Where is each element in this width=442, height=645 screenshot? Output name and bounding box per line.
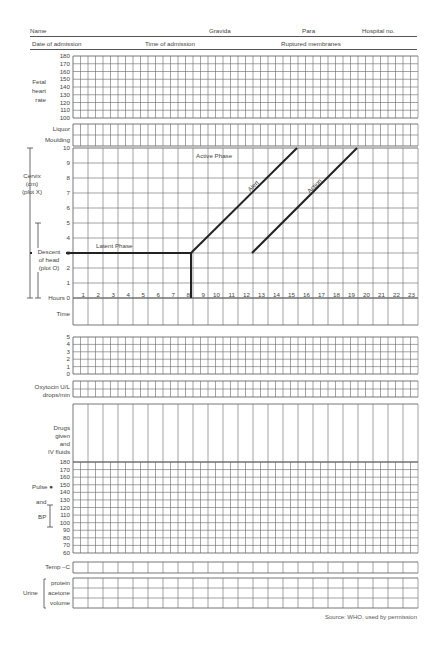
hour-label: 5 xyxy=(133,292,145,298)
axis-tick: 4 xyxy=(50,235,70,241)
hour-label: 13 xyxy=(253,292,265,298)
time-label: Time xyxy=(30,311,70,317)
axis-tick: 120 xyxy=(50,505,70,511)
axis-tick: 150 xyxy=(50,482,70,488)
axis-tick: 180 xyxy=(50,459,70,465)
axis-tick: 70 xyxy=(50,542,70,548)
axis-tick: 120 xyxy=(50,100,70,106)
urine-label: Urine xyxy=(23,590,38,596)
cervix-label: Cervix(cm)(plot X) xyxy=(17,172,47,196)
active-phase-label: Active Phase xyxy=(196,153,232,159)
source-credit: Source: WHO, used by permission xyxy=(325,614,417,620)
hour-label: 18 xyxy=(328,292,340,298)
hour-label: 14 xyxy=(268,292,280,298)
axis-tick: 60 xyxy=(50,550,70,556)
hour-label: 19 xyxy=(343,292,355,298)
axis-tick: 5 xyxy=(50,334,70,340)
axis-tick: 7 xyxy=(50,190,70,196)
temp-label: Temp –C xyxy=(20,564,70,570)
axis-tick: 100 xyxy=(50,520,70,526)
axis-tick: 1 xyxy=(50,280,70,286)
liquor-label: Liquor xyxy=(30,126,70,132)
hour-label: 6 xyxy=(148,292,160,298)
axis-tick: 10 xyxy=(50,145,70,151)
hour-label: 1 xyxy=(73,292,85,298)
hour-label: 11 xyxy=(223,292,235,298)
moulding-label: Moulding xyxy=(30,137,70,143)
hour-label: 12 xyxy=(238,292,250,298)
axis-tick: 3 xyxy=(50,250,70,256)
axis-tick: 140 xyxy=(50,489,70,495)
hour-label: 8 xyxy=(178,292,190,298)
axis-tick: 6 xyxy=(50,205,70,211)
axis-tick: 5 xyxy=(50,220,70,226)
axis-tick: 2 xyxy=(50,265,70,271)
hour-label: 21 xyxy=(373,292,385,298)
axis-tick: 170 xyxy=(50,467,70,473)
latent-phase-label: Latent Phase xyxy=(96,243,132,249)
urine-protein-label: protein xyxy=(40,580,70,586)
axis-tick: 100 xyxy=(50,115,70,121)
axis-tick: 150 xyxy=(50,76,70,82)
hour-label: 7 xyxy=(163,292,175,298)
axis-tick: 110 xyxy=(50,512,70,518)
hours-label: Hours 0 xyxy=(30,295,70,301)
hour-label: 15 xyxy=(283,292,295,298)
hour-label: 16 xyxy=(298,292,310,298)
bp-label: BP xyxy=(38,514,46,520)
fhr-label: Fetalheartrate xyxy=(20,77,46,104)
oxytocin-label: Oxytocin U/Ldrops/min xyxy=(10,383,70,399)
axis-tick: 9 xyxy=(50,160,70,166)
axis-tick: 160 xyxy=(50,474,70,480)
axis-tick: 90 xyxy=(50,527,70,533)
axis-tick: 180 xyxy=(50,53,70,59)
axis-tick: 8 xyxy=(50,175,70,181)
hour-label: 9 xyxy=(193,292,205,298)
axis-tick: 110 xyxy=(50,107,70,113)
axis-tick: 2 xyxy=(50,356,70,362)
hour-label: 17 xyxy=(313,292,325,298)
hour-label: 22 xyxy=(388,292,400,298)
axis-tick: 0 xyxy=(50,371,70,377)
axis-tick: 3 xyxy=(50,349,70,355)
axis-tick: 170 xyxy=(50,61,70,67)
hour-label: 4 xyxy=(118,292,130,298)
urine-acetone-label: acetone xyxy=(40,590,70,596)
axis-tick: 130 xyxy=(50,92,70,98)
urine-volume-label: volume xyxy=(40,600,70,606)
axis-tick: 160 xyxy=(50,69,70,75)
hour-label: 20 xyxy=(358,292,370,298)
axis-tick: 130 xyxy=(50,497,70,503)
and-label: and xyxy=(36,499,46,505)
hour-label: 10 xyxy=(208,292,220,298)
axis-tick: 4 xyxy=(50,341,70,347)
axis-tick: 80 xyxy=(50,535,70,541)
drugs-label: DrugsgivenandIV fluids xyxy=(20,424,70,456)
axis-tick: 1 xyxy=(50,364,70,370)
hour-label: 23 xyxy=(403,292,415,298)
axis-tick: 140 xyxy=(50,84,70,90)
hour-label: 2 xyxy=(88,292,100,298)
hour-label: 3 xyxy=(103,292,115,298)
alert-line xyxy=(191,148,297,253)
